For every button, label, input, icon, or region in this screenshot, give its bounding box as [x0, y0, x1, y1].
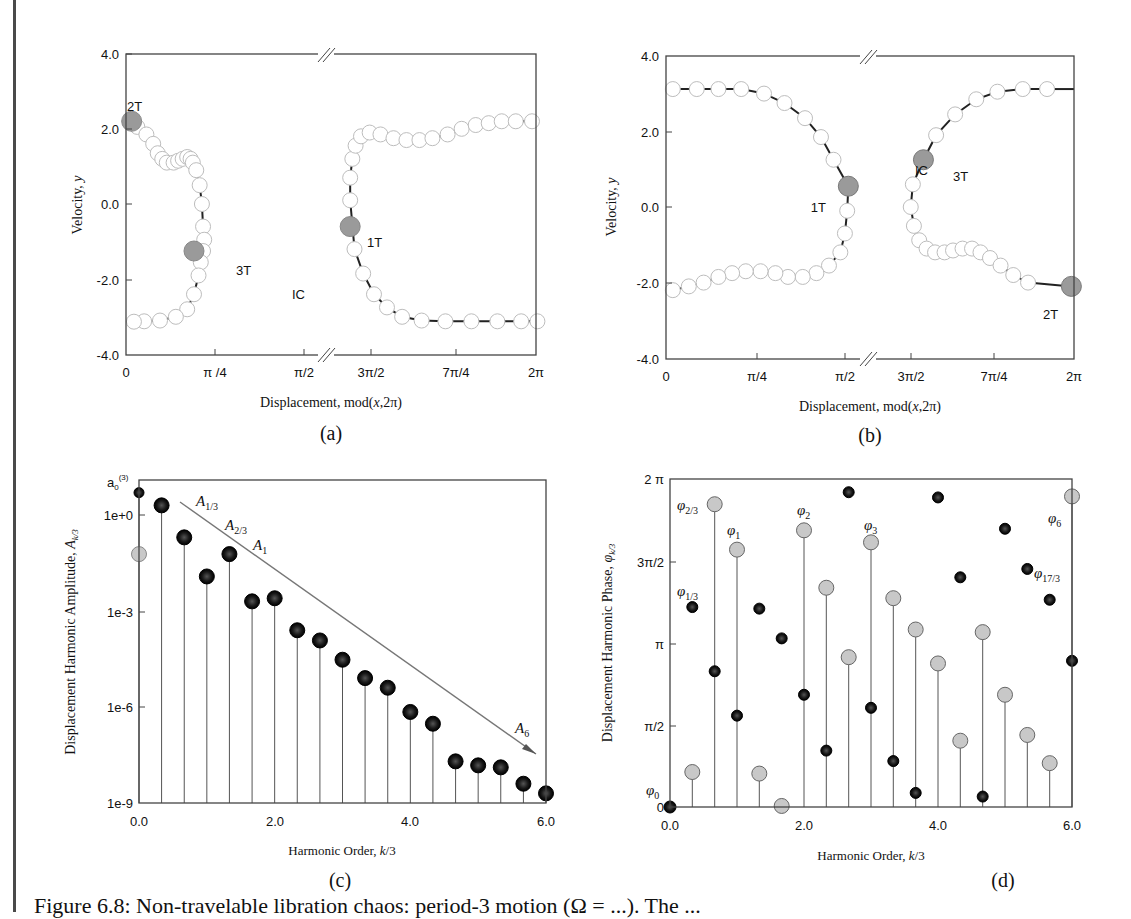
y-axis-title: Velocity, y — [70, 175, 85, 235]
plot-frame-b — [666, 56, 1074, 359]
grey-phase-marker — [1042, 756, 1057, 771]
dark-phase-marker — [888, 756, 899, 767]
y-tick-label: 0.0 — [101, 197, 119, 212]
dark-phase-marker — [910, 787, 921, 798]
y-axis-title: Displacement Harmonic Phase, φk/3 — [600, 543, 617, 742]
grey-phase-marker — [975, 625, 990, 640]
panel-d: 2 π 3π/2 π π/2 0 0.0 2.0 4.0 6.0 Harmoni… — [600, 472, 1081, 892]
amplitude-marker — [154, 498, 169, 513]
amplitude-marker — [267, 591, 282, 606]
grey-phase-marker — [931, 656, 946, 671]
y-axis-title: Displacement Harmonic Amplitude, Ak/3 — [63, 529, 80, 755]
y-tick-label: 1e-3 — [107, 605, 133, 620]
panel-c: 1e+0 1e-3 1e-6 1e-9 0.0 2.0 4.0 6.0 Harm… — [63, 473, 555, 892]
dark-phase-marker — [955, 572, 966, 583]
x-tick-label: π/2 — [294, 365, 314, 380]
annotation-phi6: φ6 — [1048, 510, 1061, 529]
panel-label: (c) — [329, 869, 351, 892]
amplitude-stems — [132, 488, 554, 803]
phase-trajectory-b — [665, 82, 1081, 298]
amplitude-marker — [403, 704, 418, 719]
x-tick-label: 2π — [528, 365, 544, 380]
amplitude-marker — [222, 547, 237, 562]
dark-phase-marker — [1000, 523, 1011, 534]
annotation-2T: 2T — [1043, 307, 1058, 322]
dark-phase-marker — [1022, 563, 1033, 574]
phase-trajectory-a — [122, 111, 545, 329]
y-tick-label: 3π/2 — [637, 555, 664, 570]
x-tick-label: 4.0 — [929, 818, 947, 833]
grey-phase-marker — [908, 622, 923, 637]
dark-phase-marker — [843, 487, 854, 498]
annotation-2T: 2T — [127, 99, 142, 114]
dark-phase-marker — [687, 602, 698, 613]
highlight-marker — [184, 241, 204, 261]
amplitude-marker — [380, 680, 395, 695]
y-tick-label: -4.0 — [97, 348, 119, 363]
x-tick-label: 2.0 — [266, 814, 284, 829]
amplitude-marker — [358, 671, 373, 686]
annotation-a0: a0(3) — [107, 473, 129, 492]
x-tick-label: 3π/2 — [357, 365, 384, 380]
grey-phase-marker — [819, 580, 834, 595]
annotation-3T: 3T — [236, 263, 251, 278]
annotation-1T: 1T — [811, 200, 826, 215]
x-tick-label: 0 — [662, 369, 669, 384]
grey-phase-marker — [797, 523, 812, 538]
x-tick-label: 4.0 — [401, 814, 419, 829]
grey-phase-marker — [707, 497, 722, 512]
amplitude-marker — [177, 530, 192, 545]
grey-phase-marker — [886, 591, 901, 606]
annotation-phi2: φ2 — [797, 502, 810, 521]
annotation-phi1/3: φ1/3 — [677, 583, 698, 602]
x-axis-title: Harmonic Order, k/3 — [817, 848, 924, 863]
amplitude-marker — [199, 569, 214, 584]
y-tick-label: 1e-9 — [107, 796, 133, 811]
highlight-marker — [122, 111, 142, 131]
dark-phase-marker — [754, 603, 765, 614]
annotation-A1: A1 — [252, 537, 267, 556]
grey-phase-marker — [998, 687, 1013, 702]
y-tick-label: 1e-6 — [107, 700, 133, 715]
y-tick-label: π/2 — [644, 719, 664, 734]
dark-phase-marker — [776, 633, 787, 644]
x-tick-label: 0.0 — [130, 814, 148, 829]
y-tick-label: 1e+0 — [104, 508, 133, 523]
amplitude-marker — [448, 754, 463, 769]
y-tick-label: π — [655, 637, 664, 652]
grey-phase-marker — [841, 650, 856, 665]
y-tick-label: -2.0 — [97, 273, 119, 288]
grey-phase-marker — [864, 535, 879, 550]
y-tick-label: 4.0 — [101, 47, 119, 62]
annotation-A1/3: A1/3 — [195, 493, 218, 512]
y-tick-label: 2.0 — [641, 125, 659, 140]
highlight-marker — [838, 176, 858, 196]
x-tick-label: 0 — [122, 365, 129, 380]
dark-phase-marker — [732, 710, 743, 721]
annotation-A6: A6 — [514, 720, 529, 739]
dark-phase-marker — [977, 791, 988, 802]
x-axis-title: Harmonic Order, k/3 — [288, 843, 395, 858]
y-tick-label: 0.0 — [641, 200, 659, 215]
grey-phase-marker — [685, 765, 700, 780]
y-axis-title: Velocity, y — [604, 177, 619, 237]
y-tick-label: -4.0 — [637, 352, 659, 367]
y-tick-label: 0 — [657, 800, 664, 815]
dark-phase-marker — [799, 689, 810, 700]
amplitude-marker — [312, 633, 327, 648]
x-tick-label: 0.0 — [661, 818, 679, 833]
amplitude-marker — [425, 716, 440, 731]
highlight-marker — [1061, 276, 1081, 296]
y-tick-label: 2.0 — [101, 122, 119, 137]
highlight-marker — [340, 217, 360, 237]
grey-phase-marker — [730, 542, 745, 557]
dark-phase-marker — [933, 492, 944, 503]
panel-label: (d) — [991, 869, 1014, 892]
annotation-phi0: φ0 — [646, 782, 659, 801]
figure-caption: Figure 6.8: Non-travelable libration cha… — [34, 893, 701, 919]
x-tick-label: π/4 — [747, 369, 767, 384]
x-tick-label: 7π/4 — [980, 369, 1007, 384]
y-tick-label: -2.0 — [637, 276, 659, 291]
dark-phase-marker — [709, 666, 720, 677]
